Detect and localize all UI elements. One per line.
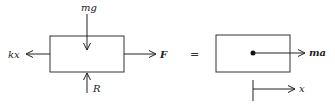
applied-force-label: F <box>159 49 168 60</box>
inertial-force-label: ma <box>309 47 326 58</box>
right-body: ma x <box>216 35 326 101</box>
x-axis-label: x <box>299 83 305 94</box>
left-body: mg kx F R <box>8 2 168 94</box>
free-body-diagram: mg kx F R = ma x <box>0 0 335 107</box>
normal-force-label: R <box>92 83 101 94</box>
weight-label: mg <box>81 2 97 13</box>
equals-sign: = <box>190 48 199 61</box>
spring-force-label: kx <box>8 49 20 60</box>
